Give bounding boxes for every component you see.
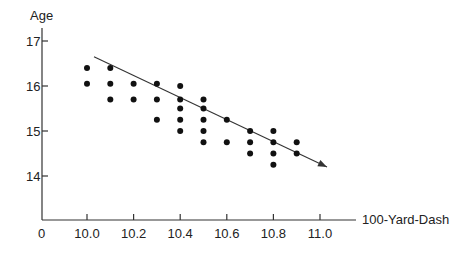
arrow-head-icon [317, 160, 327, 167]
y-tick-label: 16 [26, 79, 40, 94]
data-point [247, 139, 253, 145]
data-point [201, 117, 207, 123]
data-point [84, 65, 90, 71]
x-axis-label: 100-Yard-Dash [362, 212, 449, 227]
data-point [247, 128, 253, 134]
data-point [107, 81, 113, 87]
trend-line [94, 57, 327, 167]
data-point [131, 97, 137, 103]
data-point [270, 151, 276, 157]
x-tick-label: 10.2 [121, 226, 146, 241]
data-point [177, 97, 183, 103]
data-point [154, 97, 160, 103]
x-tick-label: 11.0 [308, 226, 332, 241]
data-point [177, 106, 183, 112]
data-point [270, 162, 276, 168]
data-point [270, 139, 276, 145]
y-tick-label: 14 [26, 169, 40, 184]
data-point [270, 128, 276, 134]
data-point [107, 97, 113, 103]
data-point [154, 81, 160, 87]
data-point [154, 117, 160, 123]
data-point [247, 151, 253, 157]
data-point [201, 106, 207, 112]
data-point [201, 97, 207, 103]
axes [42, 28, 356, 220]
y-ticks: 14151617 [26, 34, 48, 184]
scatter-chart: Age 100-Yard-Dash 14151617 010.010.210.4… [0, 0, 467, 253]
x-tick-label: 10.6 [214, 226, 239, 241]
data-point [201, 128, 207, 134]
data-point [107, 65, 113, 71]
x-tick-label: 10.8 [261, 226, 286, 241]
data-point [177, 83, 183, 89]
data-point [224, 117, 230, 123]
data-point [294, 151, 300, 157]
data-point [177, 128, 183, 134]
data-point [131, 81, 137, 87]
data-point [84, 81, 90, 87]
y-tick-label: 17 [26, 34, 40, 49]
x-tick-label: 10.0 [74, 226, 99, 241]
data-point [224, 139, 230, 145]
x-origin-label: 0 [38, 226, 45, 241]
y-axis-label: Age [30, 8, 53, 23]
x-ticks: 010.010.210.410.610.811.0 [38, 214, 332, 241]
y-tick-label: 15 [26, 124, 40, 139]
data-points [84, 65, 300, 168]
data-point [177, 117, 183, 123]
data-point [201, 139, 207, 145]
data-point [294, 139, 300, 145]
x-tick-label: 10.4 [168, 226, 193, 241]
